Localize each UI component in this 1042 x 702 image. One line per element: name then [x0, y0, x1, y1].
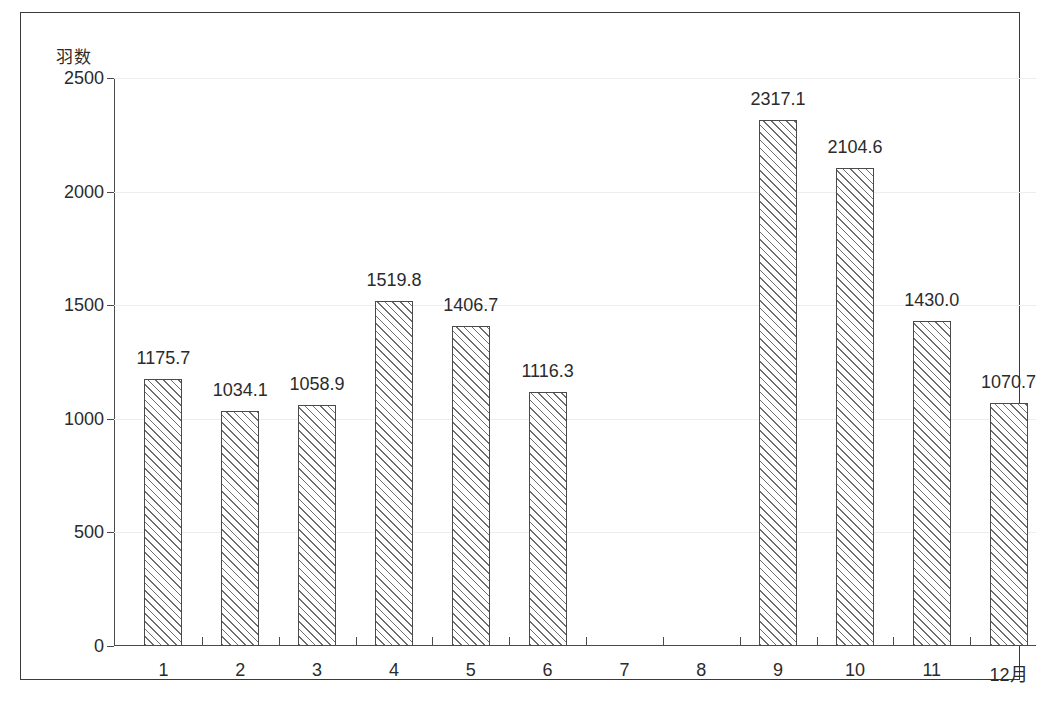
bar	[144, 379, 182, 646]
y-axis-tick	[107, 646, 114, 647]
y-axis-line	[114, 78, 115, 646]
bar	[375, 301, 413, 646]
bar	[452, 326, 490, 646]
plot-area: 05001000150020002500 1175.71034.11058.91…	[114, 78, 1036, 646]
x-axis-tick	[893, 637, 894, 646]
bar-value-label: 1430.0	[904, 290, 959, 311]
bar	[759, 120, 797, 646]
y-axis-tick	[107, 419, 114, 420]
y-axis-tick-label: 1000	[32, 408, 104, 429]
x-axis-category-label: 3	[312, 660, 322, 681]
x-axis-category-label: 6	[543, 660, 553, 681]
y-axis-tick-label: 0	[32, 636, 104, 657]
bar-value-label: 1034.1	[213, 380, 268, 401]
x-axis-tick	[279, 637, 280, 646]
x-axis-category-label: 1	[158, 660, 168, 681]
bar	[913, 321, 951, 646]
x-axis-category-label: 8	[696, 660, 706, 681]
y-axis-tick	[107, 78, 114, 79]
bar-value-label: 1406.7	[443, 295, 498, 316]
chart-page: 羽数 05001000150020002500 1175.71034.11058…	[0, 0, 1042, 702]
bar-value-label: 1070.7	[981, 372, 1036, 393]
y-axis-tick-label: 500	[32, 522, 104, 543]
bar	[529, 392, 567, 646]
x-axis-category-label: 7	[619, 660, 629, 681]
x-axis-tick	[509, 637, 510, 646]
y-axis-tick-label: 2500	[32, 68, 104, 89]
y-axis-caption: 羽数	[56, 43, 91, 68]
x-axis-category-label: 4	[389, 660, 399, 681]
x-axis-tick	[202, 637, 203, 646]
bar-value-label: 1519.8	[366, 270, 421, 291]
x-axis-tick	[740, 637, 741, 646]
x-axis-tick	[663, 637, 664, 646]
gridline	[114, 305, 1036, 306]
gridline	[114, 192, 1036, 193]
x-axis-tick	[970, 637, 971, 646]
x-axis-category-label: 10	[845, 660, 865, 681]
bar-value-label: 1058.9	[290, 374, 345, 395]
x-axis-tick	[586, 637, 587, 646]
x-axis-category-label: 11	[922, 660, 941, 681]
bar	[990, 403, 1028, 646]
x-axis-category-label: 12月	[990, 660, 1028, 686]
y-axis-tick	[107, 305, 114, 306]
y-axis-tick	[107, 532, 114, 533]
figure-frame: 羽数 05001000150020002500 1175.71034.11058…	[20, 12, 1020, 680]
x-axis-tick	[817, 637, 818, 646]
x-axis-category-label: 9	[773, 660, 783, 681]
bar-value-label: 1116.3	[521, 361, 573, 382]
bar-value-label: 2104.6	[827, 137, 882, 158]
y-axis-tick	[107, 192, 114, 193]
x-axis-category-label: 5	[466, 660, 476, 681]
x-axis-category-label: 2	[235, 660, 245, 681]
x-axis-tick	[356, 637, 357, 646]
y-axis-tick-label: 2000	[32, 181, 104, 202]
x-axis-tick	[432, 637, 433, 646]
bar	[298, 405, 336, 646]
bar-value-label: 2317.1	[751, 89, 806, 110]
bar	[221, 411, 259, 646]
bar-value-label: 1175.7	[137, 348, 191, 369]
gridline	[114, 78, 1036, 79]
bar	[836, 168, 874, 646]
y-axis-tick-label: 1500	[32, 295, 104, 316]
